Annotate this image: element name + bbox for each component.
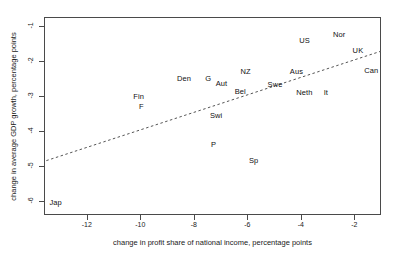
point-label-it: It: [324, 87, 328, 96]
x-tick-label-4: -4: [298, 221, 304, 228]
point-label-us: US: [299, 36, 310, 45]
point-label-p: P: [211, 140, 216, 149]
y-tick-label-5: -6: [24, 195, 37, 207]
x-tick-label-0: -12: [82, 221, 92, 228]
x-axis-title: change in profit share of national incom…: [44, 238, 381, 247]
point-label-aut: Aut: [216, 78, 228, 87]
x-tick-label-1: -10: [135, 221, 145, 228]
y-tick-label-0: -1: [24, 20, 37, 32]
point-label-g: G: [205, 74, 211, 83]
y-tick-label-3: -4: [24, 125, 37, 137]
y-axis-title: change in average GDP growth, percentage…: [6, 17, 20, 215]
x-tick-4: [301, 215, 302, 220]
point-label-uk: UK: [353, 45, 364, 54]
plot-area: NorUSUKCanNZAusDenGAutSweBelNethItFinFSw…: [45, 18, 380, 214]
x-tick-0: [87, 215, 88, 220]
y-axis-title-text: change in average GDP growth, percentage…: [9, 32, 18, 200]
point-label-aus: Aus: [290, 66, 303, 75]
point-label-can: Can: [364, 65, 378, 74]
y-tick-label-2: -3: [24, 90, 37, 102]
x-tick-label-2: -8: [191, 221, 197, 228]
point-label-swe: Swe: [268, 79, 283, 88]
point-label-f: F: [139, 102, 144, 111]
x-tick-label-3: -6: [244, 221, 250, 228]
y-tick-label-1: -2: [24, 55, 37, 67]
y-tick-label-4: -5: [24, 160, 37, 172]
point-label-neth: Neth: [296, 87, 312, 96]
scatter-chart-figure: change in average GDP growth, percentage…: [0, 0, 396, 262]
point-label-bel: Bel: [235, 86, 246, 95]
point-label-swi: Swi: [210, 111, 222, 120]
x-tick-5: [354, 215, 355, 220]
point-label-jap: Jap: [49, 197, 61, 206]
x-tick-label-5: -2: [351, 221, 357, 228]
point-label-nz: NZ: [240, 66, 250, 75]
plot-frame: NorUSUKCanNZAusDenGAutSweBelNethItFinFSw…: [44, 17, 381, 215]
x-tick-2: [194, 215, 195, 220]
point-label-den: Den: [177, 74, 191, 83]
point-label-nor: Nor: [333, 29, 345, 38]
point-label-fin: Fin: [133, 91, 144, 100]
point-label-sp: Sp: [249, 155, 258, 164]
x-tick-1: [140, 215, 141, 220]
x-tick-3: [247, 215, 248, 220]
